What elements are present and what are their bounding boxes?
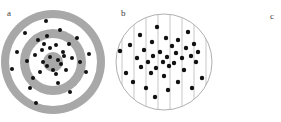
sample-point xyxy=(182,68,186,72)
sample-point xyxy=(151,54,155,58)
sample-point xyxy=(36,38,40,42)
sample-point xyxy=(172,61,176,65)
sample-point xyxy=(155,25,159,29)
sample-point xyxy=(75,36,79,40)
sample-point xyxy=(150,40,154,44)
sample-point xyxy=(170,44,174,48)
sample-point xyxy=(51,68,55,72)
panel-c: c xyxy=(226,0,281,122)
sample-point xyxy=(23,31,27,35)
sample-point xyxy=(167,64,171,68)
sample-point xyxy=(174,51,178,55)
sample-point xyxy=(118,49,122,53)
sample-point xyxy=(28,86,32,90)
sample-point xyxy=(128,43,132,47)
sample-point xyxy=(176,38,180,42)
sample-point xyxy=(200,76,204,80)
sample-point xyxy=(61,50,65,54)
sample-point xyxy=(189,54,193,58)
sample-point xyxy=(54,72,58,76)
sample-point xyxy=(48,55,52,59)
sample-point xyxy=(190,86,194,90)
sample-point xyxy=(34,101,38,105)
sample-point xyxy=(176,80,180,84)
sample-point xyxy=(45,34,49,38)
sample-point xyxy=(41,60,45,64)
sample-point xyxy=(153,95,157,99)
sample-point xyxy=(67,42,71,46)
panel-a: a xyxy=(0,0,108,122)
sample-point xyxy=(146,60,150,64)
sample-point xyxy=(64,68,68,72)
sample-point xyxy=(142,48,146,52)
sample-point xyxy=(154,66,158,70)
ring-target-svg xyxy=(0,0,108,122)
sample-point xyxy=(164,36,168,40)
sample-point xyxy=(184,46,188,50)
sample-point xyxy=(84,70,88,74)
sample-point xyxy=(15,50,19,54)
sample-point xyxy=(186,30,190,34)
sample-point xyxy=(162,74,166,78)
sample-point xyxy=(58,28,62,32)
panel-label-c: c xyxy=(270,12,274,21)
sample-point xyxy=(131,80,135,84)
sample-point xyxy=(196,50,200,54)
sample-point xyxy=(48,46,52,50)
panel-label-b: b xyxy=(121,9,126,18)
sample-point xyxy=(54,43,58,47)
sample-point xyxy=(40,48,44,52)
sample-point xyxy=(87,52,91,56)
sample-point xyxy=(180,56,184,60)
sample-point xyxy=(70,56,74,60)
sample-point xyxy=(158,50,162,54)
sample-point xyxy=(135,56,139,60)
sample-point xyxy=(59,62,63,66)
figure-panel-container: a b c xyxy=(0,0,281,122)
sample-point xyxy=(31,76,35,80)
sample-point xyxy=(78,60,82,64)
sample-point xyxy=(44,19,48,23)
sample-point xyxy=(124,71,128,75)
sample-point xyxy=(194,60,198,64)
sample-point xyxy=(161,60,165,64)
sample-point xyxy=(10,67,14,71)
strip-circle-svg xyxy=(108,0,226,122)
panel-label-a: a xyxy=(7,9,11,18)
sample-point xyxy=(149,71,153,75)
sample-point xyxy=(139,65,143,69)
strip-circle-diagram xyxy=(108,0,226,122)
sample-point xyxy=(166,88,170,92)
sample-point xyxy=(56,58,60,62)
sample-point xyxy=(33,53,37,57)
sample-point xyxy=(56,81,60,85)
sample-point xyxy=(192,42,196,46)
panel-b: b xyxy=(108,0,226,122)
sample-point xyxy=(42,42,46,46)
sample-point xyxy=(25,59,29,63)
sample-point xyxy=(62,54,66,58)
sample-point xyxy=(138,33,142,37)
sample-point xyxy=(38,70,42,74)
sample-point xyxy=(144,86,148,90)
sample-point xyxy=(68,90,72,94)
sample-point xyxy=(45,64,49,68)
ring-target-diagram xyxy=(0,0,108,122)
sample-point xyxy=(165,55,169,59)
